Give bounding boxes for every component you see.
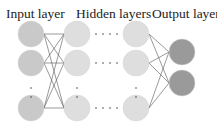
input-node [18,95,44,121]
hidden-node [64,50,90,76]
hidden-node [64,21,90,47]
edge [149,83,169,108]
ellipsis-dot [76,96,78,98]
input-node [18,50,44,76]
ellipsis-dot [95,62,97,64]
ellipsis-dot [116,107,118,109]
edge [149,34,169,52]
ellipsis-dot [135,87,137,89]
ellipsis-dot [30,87,32,89]
output-layer-label: Output layer [152,6,217,21]
ellipsis-dot [30,96,32,98]
ellipsis-dot [135,96,137,98]
hidden-node [123,21,149,47]
neural-network-diagram: Input layer Hidden layers Output layer [0,0,217,131]
ellipsis-dot [102,107,104,109]
ellipsis-dot [76,87,78,89]
output-node [169,39,195,65]
ellipsis-dot [95,33,97,35]
connection-edges [44,34,169,108]
ellipsis-dot [116,62,118,64]
ellipsis-dot [109,107,111,109]
input-layer-label: Input layer [6,6,65,21]
ellipsis-dot [109,33,111,35]
hidden-node [123,50,149,76]
hidden-node [123,95,149,121]
output-node [169,70,195,96]
hidden-node [64,95,90,121]
input-node [18,21,44,47]
ellipsis-dot [95,107,97,109]
ellipsis-dot [116,33,118,35]
ellipsis-dot [109,62,111,64]
edge [149,52,169,63]
ellipsis-dot [102,33,104,35]
ellipsis-dot [102,62,104,64]
hidden-layers-label: Hidden layers [76,6,151,21]
edge [149,34,169,83]
